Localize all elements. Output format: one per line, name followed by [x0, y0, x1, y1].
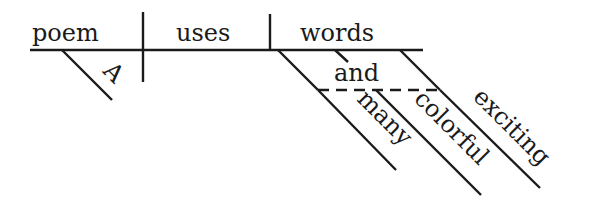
modifier-branch-right [400, 50, 440, 90]
modifier-word-a: A [97, 56, 130, 89]
sentence-diagram: poem uses words A and many colorful exci… [0, 0, 593, 207]
verb-word: uses [176, 19, 230, 47]
subject-word: poem [32, 19, 99, 47]
object-word: words [300, 19, 374, 47]
modifier-word-many: many [352, 84, 419, 151]
conjunction-word: and [334, 59, 379, 87]
modifier-branch-left [278, 50, 318, 90]
